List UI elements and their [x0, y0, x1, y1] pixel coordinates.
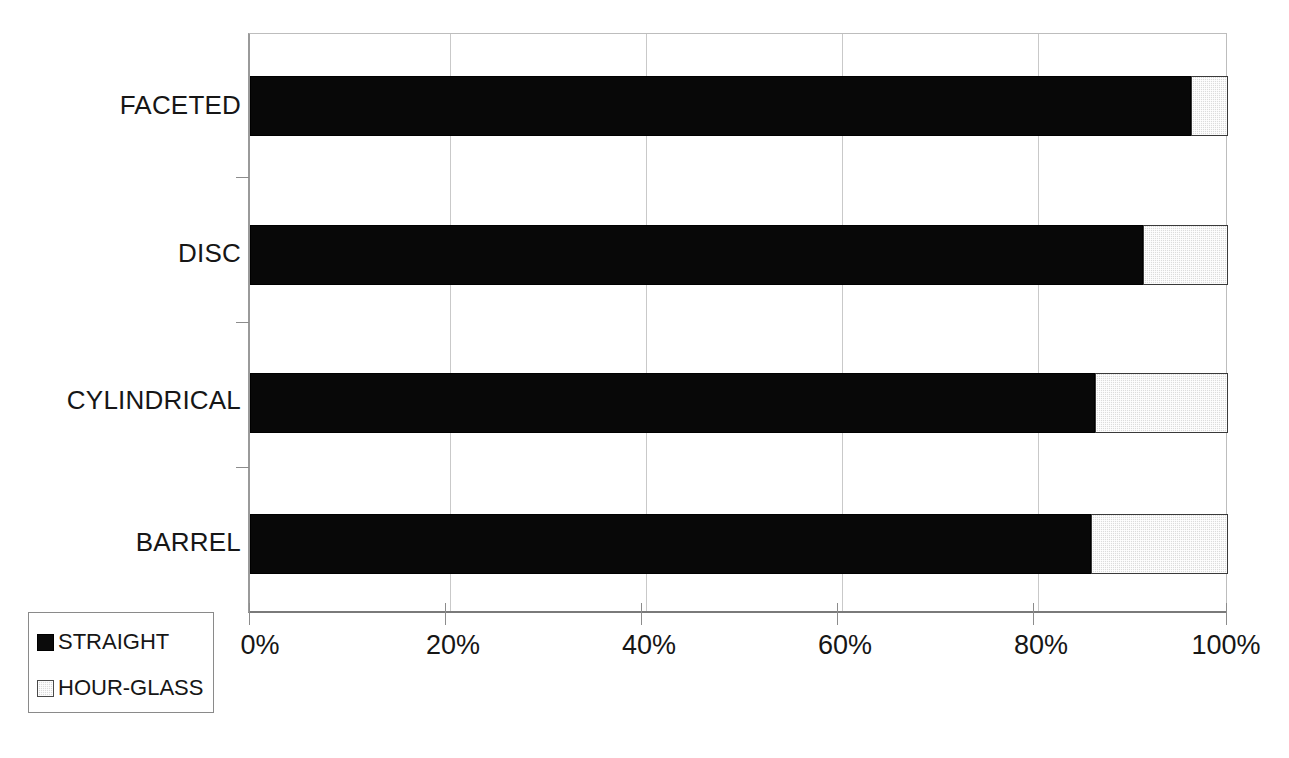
bar-row-disc[interactable]	[250, 225, 1228, 285]
bar-segment-straight[interactable]	[250, 514, 1091, 574]
x-axis-label-80: 80%	[1014, 630, 1068, 661]
y-axis-tick	[236, 177, 249, 178]
y-axis-label-cylindrical: CYLINDRICAL	[67, 385, 241, 416]
bar-segment-hour-glass[interactable]	[1143, 225, 1228, 285]
bar-segment-straight[interactable]	[250, 76, 1191, 136]
black-square-swatch-icon	[37, 634, 54, 651]
bar-segment-straight[interactable]	[250, 373, 1095, 433]
plot-area	[248, 33, 1227, 613]
y-axis-label-faceted: FACETED	[120, 90, 241, 121]
x-axis-label-60: 60%	[818, 630, 872, 661]
bar-segment-hour-glass[interactable]	[1095, 373, 1228, 433]
x-axis-tick	[445, 603, 446, 625]
legend-item-hour-glass[interactable]: HOUR-GLASS	[37, 675, 203, 701]
legend-item-straight[interactable]: STRAIGHT	[37, 629, 169, 655]
bar-segment-hour-glass[interactable]	[1091, 514, 1228, 574]
x-axis-tick	[1033, 603, 1034, 625]
bar-row-faceted[interactable]	[250, 76, 1228, 136]
y-axis-tick	[236, 322, 249, 323]
stacked-bar-chart: FACETED DISC CYLINDRICAL BARREL 0% 20% 4…	[0, 0, 1289, 758]
bar-segment-straight[interactable]	[250, 225, 1143, 285]
x-axis-tick	[1226, 603, 1227, 625]
legend-label-hour-glass: HOUR-GLASS	[58, 675, 203, 701]
x-axis-label-0: 0%	[240, 630, 279, 661]
x-axis-label-100: 100%	[1191, 630, 1260, 661]
legend-label-straight: STRAIGHT	[58, 629, 169, 655]
x-axis-tick	[837, 603, 838, 625]
bar-row-cylindrical[interactable]	[250, 373, 1228, 433]
y-axis-tick	[236, 467, 249, 468]
x-axis-tick	[641, 603, 642, 625]
bar-row-barrel[interactable]	[250, 514, 1228, 574]
x-axis-label-40: 40%	[622, 630, 676, 661]
legend: STRAIGHT HOUR-GLASS	[28, 612, 214, 713]
x-axis-tick	[249, 603, 250, 625]
bar-segment-hour-glass[interactable]	[1191, 76, 1228, 136]
gray-square-swatch-icon	[37, 680, 54, 697]
y-axis-label-disc: DISC	[178, 238, 241, 269]
x-axis-label-20: 20%	[426, 630, 480, 661]
y-axis-label-barrel: BARREL	[136, 527, 241, 558]
